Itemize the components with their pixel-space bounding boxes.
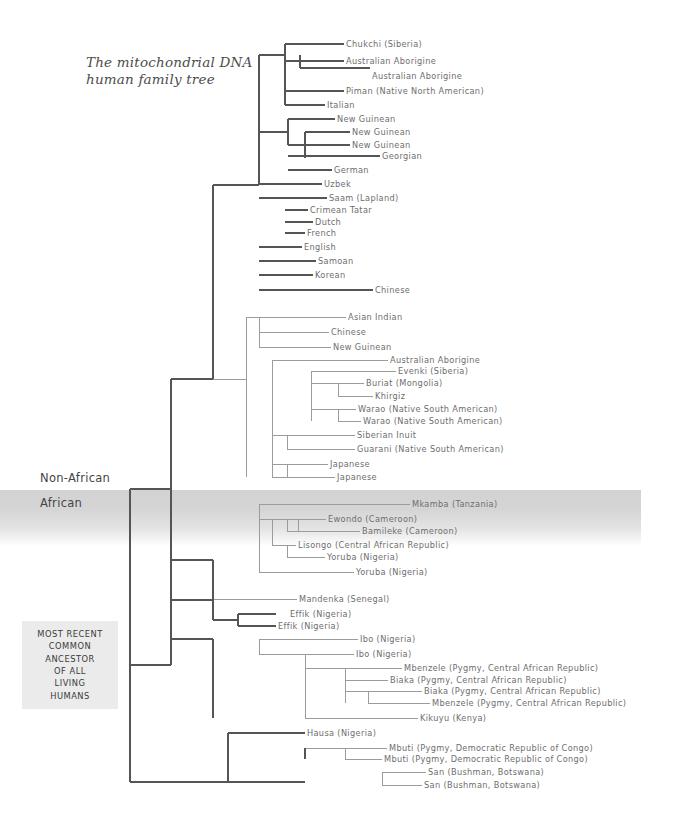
tree-tip-label: Biaka (Pygmy, Central African Republic) [390,675,567,685]
tree-tip-label: Buriat (Mongolia) [366,378,443,388]
tree-tip-label: Effik (Nigeria) [290,609,352,619]
tree-tip-label: Lisongo (Central African Republic) [298,540,449,550]
mrca-line: ANCESTOR [45,653,95,665]
tree-tip-label: French [307,228,336,238]
tree-tip-label: Chukchi (Siberia) [346,39,422,49]
tree-tip-label: Asian Indian [348,312,402,322]
tree-tip-label: Dutch [315,217,341,227]
tree-tip-label: English [304,242,336,252]
region-label-non-african: Non-African [40,471,110,485]
mtdna-family-tree-figure: The mitochondrial DNA human family tree … [0,0,675,837]
tree-tip-label: Khirgiz [375,391,405,401]
tree-tip-label: Mbuti (Pygmy, Democratic Republic of Con… [389,743,593,753]
tree-tip-label: Australian Aborigine [390,355,480,365]
tree-tip-label: San (Bushman, Botswana) [428,767,544,777]
tree-tip-label: Ewondo (Cameroon) [328,514,417,524]
tree-tip-label: Warao (Native South American) [358,404,498,414]
tree-tip-label: Ibo (Nigeria) [360,634,415,644]
tree-tip-label: Kikuyu (Kenya) [420,713,486,723]
tree-tip-label: Georgian [382,151,422,161]
tree-tip-label: Mbenzele (Pygmy, Central African Republi… [432,698,626,708]
tree-tip-label: Mbuti (Pygmy, Democratic Republic of Con… [384,754,588,764]
figure-title: The mitochondrial DNA human family tree [86,54,296,88]
tree-tip-label: Uzbek [324,179,351,189]
tree-tip-label: Chinese [375,285,410,295]
tree-tip-label: Siberian Inuit [357,430,416,440]
figure-title-line-1: The mitochondrial DNA [86,54,296,71]
tree-tip-label: Japanese [330,459,370,469]
tree-tip-label: Mbenzele (Pygmy, Central African Republi… [404,663,598,673]
mrca-line: COMMON [49,640,91,652]
figure-title-line-2: human family tree [86,71,296,88]
tree-tip-label: Mandenka (Senegal) [299,594,390,604]
tree-tip-label: Chinese [331,327,366,337]
mrca-callout-box: MOST RECENT COMMON ANCESTOR OF ALL LIVIN… [22,621,118,709]
tree-tip-label: Piman (Native North American) [346,86,484,96]
tree-tip-label: Italian [327,100,355,110]
tree-tip-label: Australian Aborigine [346,56,436,66]
tree-tip-label: Hausa (Nigeria) [307,728,376,738]
tree-tip-label: Yoruba (Nigeria) [327,552,399,562]
tree-tip-label: Guarani (Native South American) [357,444,504,454]
mrca-line: LIVING [55,677,86,689]
tree-tip-label: Yoruba (Nigeria) [356,567,428,577]
mrca-line: OF ALL [54,665,86,677]
tree-tip-label: Ibo (Nigeria) [356,649,411,659]
tree-tip-label: Japanese [337,472,377,482]
tree-tip-label: Samoan [318,256,354,266]
tree-tip-label: Effik (Nigeria) [278,621,340,631]
tree-tip-label: New Guinean [352,140,411,150]
region-label-african: African [40,496,82,510]
tree-tip-label: Bamileke (Cameroon) [362,526,457,536]
mrca-line: MOST RECENT [37,628,102,640]
tree-tip-label: Evenki (Siberia) [398,366,468,376]
tree-tip-label: German [334,165,369,175]
tree-tip-label: Warao (Native South American) [363,416,503,426]
tree-tip-label: Saam (Lapland) [329,193,399,203]
tree-tip-label: New Guinean [333,342,392,352]
tree-tip-label: New Guinean [337,114,396,124]
tree-tip-label: Australian Aborigine [372,71,462,81]
tree-tip-label: Mkamba (Tanzania) [412,499,497,509]
mrca-line: HUMANS [50,690,90,702]
tree-tip-label: Biaka (Pygmy, Central African Republic) [424,686,601,696]
tree-tip-label: Korean [315,270,346,280]
tree-tip-label: San (Bushman, Botswana) [424,780,540,790]
tree-tip-label: New Guinean [352,127,411,137]
tree-tip-label: Crimean Tatar [310,205,372,215]
phylogenetic-tree-lines [0,0,675,837]
